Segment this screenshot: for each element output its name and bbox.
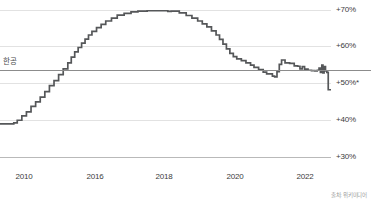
- y-tick-label-30: +30%: [336, 152, 356, 161]
- y-tick-label-50: +50%*: [336, 78, 359, 87]
- chart-container: 한공 +70% +60% +50%* +40% +30% 2010 2016 2…: [0, 0, 371, 201]
- plot-area: [0, 0, 331, 162]
- x-tick-label-2016: 2016: [87, 172, 104, 181]
- x-tick-label-2010: 2010: [16, 172, 33, 181]
- x-tick-label-2020: 2020: [227, 172, 244, 181]
- y-tick-label-60: +60%: [336, 41, 356, 50]
- average-line-label: 한공: [3, 55, 17, 66]
- series-rate: [0, 0, 331, 162]
- x-tick-label-2018: 2018: [156, 172, 173, 181]
- x-tick-label-2022: 2022: [297, 172, 314, 181]
- y-tick-label-40: +40%: [336, 115, 356, 124]
- average-reference-line: [0, 70, 371, 71]
- source-note: 출처: 위키미디어: [331, 191, 367, 199]
- y-tick-label-70: +70%: [336, 5, 356, 14]
